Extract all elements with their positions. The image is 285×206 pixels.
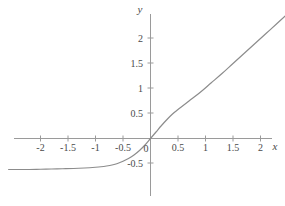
x-tick-label--2: -2 xyxy=(36,142,44,153)
x-tick-label--0.5: -0.5 xyxy=(115,142,131,153)
y-tick-label-0.5: 0.5 xyxy=(131,108,144,119)
y-axis-label: y xyxy=(137,3,143,15)
y-tick-label-1.5: 1.5 xyxy=(131,58,144,69)
x-tick-label-2: 2 xyxy=(258,142,263,153)
x-tick-label--1.5: -1.5 xyxy=(60,142,76,153)
y-tick-label-2: 2 xyxy=(138,33,143,44)
x-tick-label-0.5: 0.5 xyxy=(172,142,185,153)
plot-svg: -2 -1.5 -1 -0.5 0 0.5 1 1.5 2 2 1.5 1 0.… xyxy=(0,0,285,206)
y-tick-label-1: 1 xyxy=(138,83,143,94)
plot-figure: -2 -1.5 -1 -0.5 0 0.5 1 1.5 2 2 1.5 1 0.… xyxy=(0,0,285,206)
x-tick-label--1: -1 xyxy=(91,142,99,153)
origin-label: 0 xyxy=(144,143,149,154)
x-tick-label-1.5: 1.5 xyxy=(227,142,240,153)
x-tick-label-1: 1 xyxy=(203,142,208,153)
x-axis-label: x xyxy=(272,140,278,152)
y-tick-label--0.5: -0.5 xyxy=(127,158,143,169)
